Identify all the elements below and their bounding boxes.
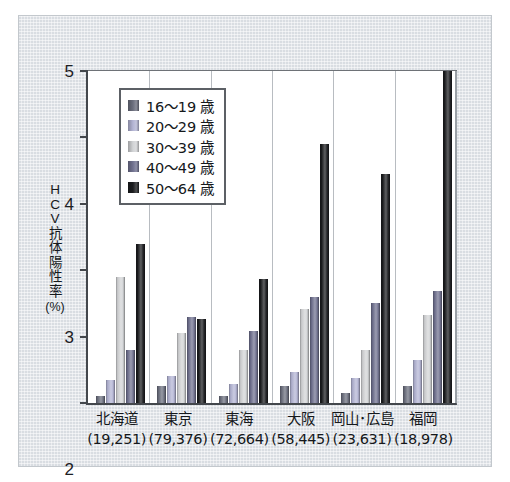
legend-item: 50～64 歳 [128,177,214,198]
legend-swatch-icon [128,141,139,152]
group-separator [272,71,273,403]
y-axis-title-char: 性 [44,270,66,285]
y-axis-tick: 5 [80,70,88,72]
y-axis-title-char: 陽 [44,256,66,271]
x-axis-sample-count: (79,376) [147,429,208,449]
bar [157,386,166,403]
bar [361,350,370,403]
y-axis-title-char: C [44,198,66,213]
bar-group [403,71,454,403]
bar [187,317,196,403]
legend-swatch-icon [128,182,139,193]
legend-swatch-icon [128,120,139,131]
bar [126,350,135,403]
bar [310,297,319,403]
x-axis-group-label: 東京(79,376) [147,409,208,449]
x-axis-region-name: 東京 [147,409,208,429]
bar [116,277,125,403]
legend-item: 40～49 歳 [128,157,214,178]
x-axis-region-name: 東海 [209,409,270,429]
bar-group [341,71,392,403]
x-axis-region-name: 大阪 [270,409,331,429]
bar [249,331,258,403]
y-axis-title: HCV抗体陽性率(%) [44,183,66,315]
legend-label: 20～29 歳 [146,115,214,136]
x-axis-sample-count: (72,664) [209,429,270,449]
x-axis-group-label: 福岡(18,978) [393,409,454,449]
bar [197,319,206,403]
y-axis-tick: 0 [80,402,88,404]
bar [413,360,422,403]
bar [259,279,268,403]
bar [320,144,329,403]
bar [96,396,105,403]
x-axis-region-name: 岡山･広島 [331,409,392,429]
x-axis-sample-count: (18,978) [393,429,454,449]
y-axis-tick-label: 5 [65,62,74,82]
y-axis-tick: 1 [80,336,88,338]
bar [371,303,380,403]
y-axis-title-char: 体 [44,241,66,256]
y-axis-tick-label: 4 [65,194,74,214]
y-axis-unit: (%) [44,300,66,315]
bar [300,309,309,403]
bar [351,378,360,403]
x-axis-group-label: 岡山･広島(23,631) [331,409,392,449]
chart-legend: 16～19 歳20～29 歳30～39 歳40～49 歳50～64 歳 [119,88,226,205]
legend-item: 16～19 歳 [128,95,214,116]
x-axis-sample-count: (19,251) [86,429,147,449]
y-axis-tick: 3 [80,203,88,205]
legend-swatch-icon [128,100,139,111]
bar [423,315,432,403]
y-axis-title-char: V [44,212,66,227]
y-axis-title-char: 抗 [44,227,66,242]
legend-label: 16～19 歳 [146,95,214,116]
x-axis-group-label: 大阪(58,445) [270,409,331,449]
group-separator [333,71,334,403]
group-separator [395,71,396,403]
legend-item: 30～39 歳 [128,136,214,157]
y-axis-tick: 2 [80,269,88,271]
bar [106,380,115,403]
plot-area: 012345 16～19 歳20～29 歳30～39 歳40～49 歳50～64… [86,70,457,405]
bar [381,174,390,403]
y-axis-tick-label: 3 [65,327,74,347]
y-axis-title-char: 率 [44,285,66,300]
bar [219,396,228,403]
bar [443,71,452,403]
bar [136,244,145,403]
bar [177,333,186,403]
y-axis-title-char: H [44,183,66,198]
legend-label: 30～39 歳 [146,136,214,157]
bar [433,291,442,403]
legend-label: 40～49 歳 [146,156,214,177]
x-axis-group-label: 東海(72,664) [209,409,270,449]
bar [290,372,299,403]
bar [229,384,238,403]
y-axis-tick-label: 2 [65,460,74,480]
legend-item: 20～29 歳 [128,116,214,137]
legend-label: 50～64 歳 [146,177,214,198]
x-axis-region-name: 福岡 [393,409,454,429]
x-axis-sample-count: (58,445) [270,429,331,449]
bar [239,350,248,403]
bar [403,386,412,403]
legend-swatch-icon [128,161,139,172]
x-axis-group-label: 北海道(19,251) [86,409,147,449]
x-axis-sample-count: (23,631) [331,429,392,449]
y-axis-tick: 4 [80,136,88,138]
bar-group [219,71,270,403]
x-axis-region-name: 北海道 [86,409,147,429]
bar [341,393,350,403]
bar-group [280,71,331,403]
chart-figure: HCV抗体陽性率(%) 012345 16～19 歳20～29 歳30～39 歳… [18,15,492,467]
bar [167,376,176,403]
bar [280,386,289,403]
